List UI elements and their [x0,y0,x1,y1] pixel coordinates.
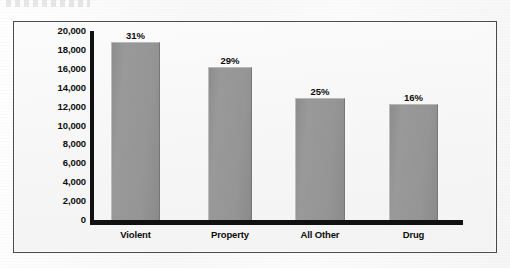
cropped-header-text-sliver [6,0,90,7]
y-tick-label-20000: 20,000 [20,26,86,36]
y-tick-label-8000: 8,000 [20,139,86,149]
bar-label-property: 29% [208,55,252,66]
y-tick-label-12000: 12,000 [20,102,86,112]
x-axis-label-drug: Drug [379,229,448,240]
y-tick-label-2000: 2,000 [20,196,86,206]
bar-property[interactable] [208,67,252,220]
bar-drug[interactable] [389,104,438,220]
x-axis-label-violent: Violent [101,229,170,240]
bar-label-drug: 16% [389,92,438,103]
y-tick-label-18000: 18,000 [20,45,86,55]
bar-all-other[interactable] [295,98,345,220]
y-tick-label-10000: 10,000 [20,121,86,131]
y-tick-label-14000: 14,000 [20,83,86,93]
screenshot-root: 20,000 18,000 16,000 14,000 12,000 10,00… [0,0,510,268]
bar-label-violent: 31% [111,30,160,41]
chart-frame: 20,000 18,000 16,000 14,000 12,000 10,00… [13,21,497,253]
x-axis-line [90,220,463,225]
bar-violent[interactable] [111,42,160,220]
y-tick-label-0: 0 [20,215,86,225]
x-axis-label-property: Property [195,229,265,240]
y-axis-line [90,31,94,225]
bar-label-all-other: 25% [295,86,345,97]
plot-area: 20,000 18,000 16,000 14,000 12,000 10,00… [14,22,498,254]
y-tick-label-6000: 6,000 [20,158,86,168]
x-axis-label-all-other: All Other [285,229,355,240]
y-tick-label-16000: 16,000 [20,64,86,74]
y-tick-label-4000: 4,000 [20,177,86,187]
